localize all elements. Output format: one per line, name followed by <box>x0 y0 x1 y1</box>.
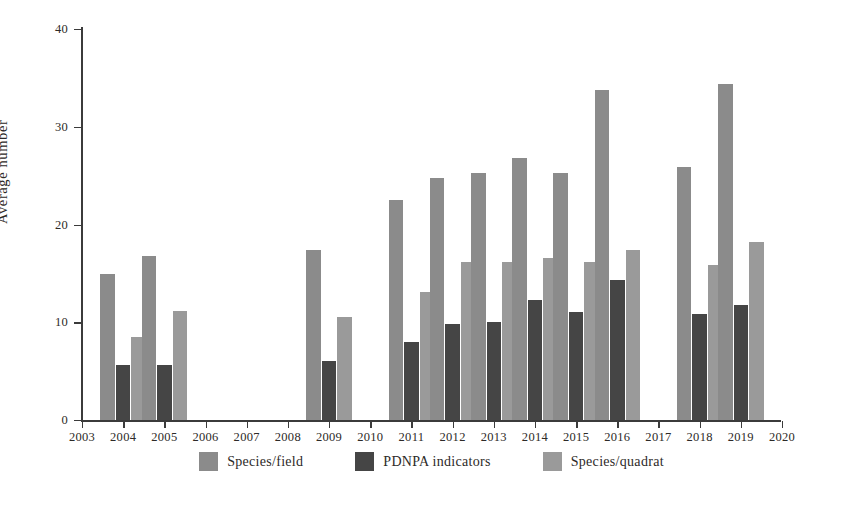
x-tick <box>82 421 83 428</box>
y-tick-label: 10 <box>55 315 68 330</box>
y-tick <box>74 322 82 323</box>
bar <box>692 314 707 420</box>
bar <box>306 250 321 420</box>
bar <box>626 250 641 420</box>
bar <box>322 361 337 420</box>
legend-swatch-icon <box>355 452 374 471</box>
bar <box>528 300 543 420</box>
bar <box>157 365 172 420</box>
bar <box>404 342 419 420</box>
bar <box>610 280 625 420</box>
bar <box>718 84 733 420</box>
bar <box>389 200 404 420</box>
bar-chart: Average number 010203040 200320042005200… <box>0 0 863 507</box>
x-tick-label: 2016 <box>604 430 630 445</box>
bar <box>677 167 692 420</box>
x-tick-label: 2017 <box>645 430 671 445</box>
legend-label: Species/quadrat <box>571 454 664 470</box>
bar <box>116 365 131 420</box>
legend-item[interactable]: PDNPA indicators <box>355 452 490 471</box>
bar <box>142 256 157 420</box>
x-tick <box>123 421 124 428</box>
x-tick-label: 2006 <box>192 430 218 445</box>
x-tick <box>700 421 701 428</box>
bar <box>512 158 527 420</box>
bar <box>749 242 764 420</box>
bar <box>569 312 584 420</box>
y-tick-label: 0 <box>61 413 68 428</box>
x-tick <box>206 421 207 428</box>
x-tick <box>576 421 577 428</box>
x-tick <box>535 421 536 428</box>
bar <box>595 90 610 420</box>
bar <box>445 324 460 420</box>
y-axis-title: Average number <box>0 120 11 224</box>
x-tick <box>453 421 454 428</box>
bar <box>471 173 486 420</box>
x-tick <box>329 421 330 428</box>
x-tick-label: 2003 <box>69 430 95 445</box>
x-tick-label: 2012 <box>439 430 465 445</box>
y-tick <box>74 225 82 226</box>
bar <box>487 322 502 420</box>
x-tick-label: 2010 <box>357 430 383 445</box>
x-tick <box>782 421 783 428</box>
x-tick <box>247 421 248 428</box>
legend-swatch-icon <box>199 452 218 471</box>
x-axis-line <box>81 420 781 422</box>
x-tick <box>494 421 495 428</box>
bar <box>100 274 115 420</box>
x-tick-label: 2007 <box>234 430 260 445</box>
y-tick-label: 30 <box>55 119 68 134</box>
x-tick-label: 2009 <box>316 430 342 445</box>
x-tick <box>411 421 412 428</box>
y-tick <box>74 420 82 421</box>
bar <box>337 317 352 420</box>
legend-swatch-icon <box>543 452 562 471</box>
bar <box>430 178 445 420</box>
bar <box>734 305 749 420</box>
plot-area <box>82 29 782 420</box>
x-tick-label: 2005 <box>151 430 177 445</box>
x-tick-label: 2018 <box>687 430 713 445</box>
legend-item[interactable]: Species/quadrat <box>543 452 664 471</box>
bar <box>553 173 568 420</box>
y-tick <box>74 29 82 30</box>
x-tick-label: 2015 <box>563 430 589 445</box>
y-tick-label: 20 <box>55 217 68 232</box>
x-tick <box>288 421 289 428</box>
y-tick-label: 40 <box>55 22 68 37</box>
x-tick-label: 2020 <box>769 430 795 445</box>
x-tick-label: 2004 <box>110 430 136 445</box>
legend-label: PDNPA indicators <box>383 454 490 470</box>
legend-item[interactable]: Species/field <box>199 452 303 471</box>
y-tick <box>74 127 82 128</box>
x-tick <box>741 421 742 428</box>
x-tick <box>164 421 165 428</box>
legend-label: Species/field <box>227 454 303 470</box>
x-tick <box>617 421 618 428</box>
bar <box>173 311 188 420</box>
x-tick-label: 2014 <box>522 430 548 445</box>
x-tick-label: 2008 <box>275 430 301 445</box>
x-tick-label: 2011 <box>399 430 425 445</box>
chart-legend: Species/fieldPDNPA indicatorsSpecies/qua… <box>0 452 863 471</box>
x-tick <box>658 421 659 428</box>
x-tick <box>370 421 371 428</box>
x-tick-label: 2013 <box>481 430 507 445</box>
x-tick-label: 2019 <box>728 430 754 445</box>
